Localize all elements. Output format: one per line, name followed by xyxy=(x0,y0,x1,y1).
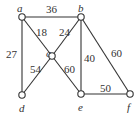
vertex-d xyxy=(19,92,25,98)
edge-weight-a-b: 36 xyxy=(46,3,58,15)
vertex-label-d: d xyxy=(19,102,25,114)
edge-weight-b-c: 24 xyxy=(59,26,71,38)
vertex-label-b: b xyxy=(78,2,84,14)
vertex-label-c: c xyxy=(46,47,51,59)
edge-weight-b-f: 60 xyxy=(111,47,123,59)
edge-c-e xyxy=(52,56,81,94)
weighted-graph-diagram: 361827244060546050 abcdef xyxy=(0,0,140,120)
vertex-e xyxy=(78,91,84,97)
vertex-a xyxy=(19,14,25,20)
edge-weight-c-d: 54 xyxy=(30,63,42,75)
vertex-label-a: a xyxy=(17,2,23,14)
edge-c-d xyxy=(22,56,52,95)
edge-weight-e-f: 50 xyxy=(100,82,112,94)
vertex-b xyxy=(78,14,84,20)
vertex-label-e: e xyxy=(78,101,83,113)
edge-weight-a-d: 27 xyxy=(6,48,18,60)
edge-weight-a-c: 18 xyxy=(36,26,48,38)
vertex-f xyxy=(127,91,133,97)
vertex-label-f: f xyxy=(127,101,132,113)
edge-weight-c-e: 60 xyxy=(64,63,76,75)
edge-weight-b-e: 40 xyxy=(84,52,96,64)
